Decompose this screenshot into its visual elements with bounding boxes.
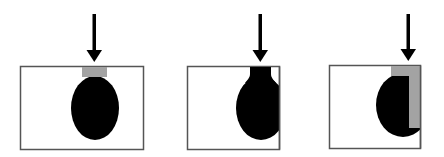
body-ellipse (71, 76, 119, 140)
panel-1 (21, 14, 144, 150)
panel-3 (330, 14, 431, 149)
cap (82, 67, 107, 77)
arrow-down-icon (87, 14, 103, 62)
diagram-canvas (0, 0, 444, 157)
arrow-down-icon (253, 14, 269, 62)
panel-2 (188, 14, 287, 150)
arrow-down-icon (401, 14, 417, 61)
body-ellipse (376, 73, 430, 137)
